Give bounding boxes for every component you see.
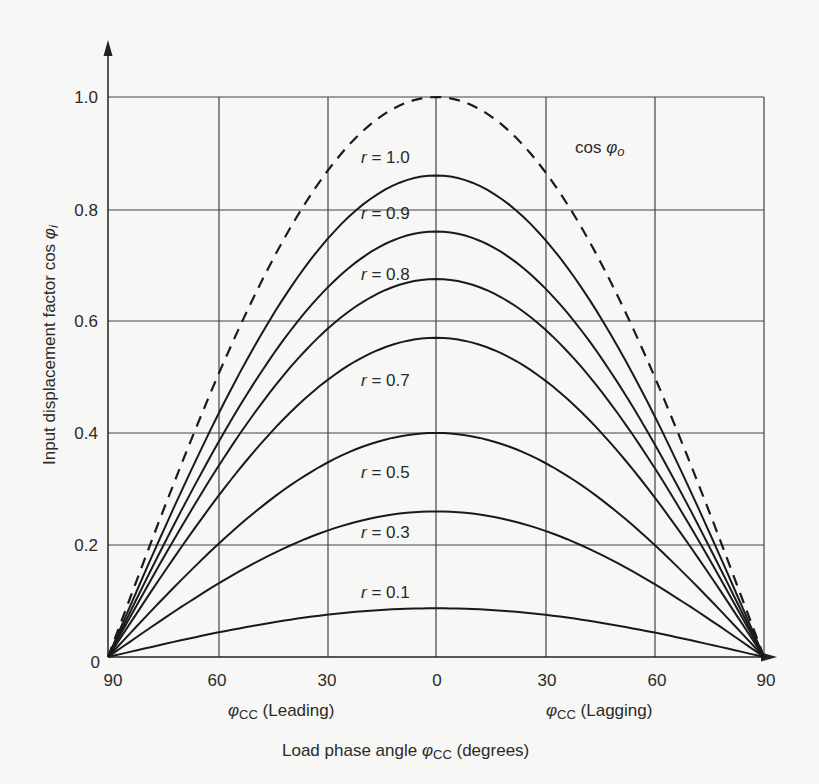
x-tick-label: 30 xyxy=(318,671,337,690)
cos-phi-o-label: cos φo xyxy=(575,138,625,159)
r-label-0-8: r = 0.8 xyxy=(361,265,410,284)
x-tick-label: 60 xyxy=(648,671,667,690)
leading-label: φCC (Leading) xyxy=(228,701,334,722)
y-tick-label: 0.8 xyxy=(74,201,98,220)
y-tick-labels: 1.0 0.8 0.6 0.4 0.2 0 xyxy=(74,88,100,672)
r-label-0-5: r = 0.5 xyxy=(361,463,410,482)
x-tick-label: 0 xyxy=(432,671,441,690)
x-tick-labels: 90 60 30 0 30 60 90 xyxy=(104,671,776,690)
x-tick-label: 30 xyxy=(538,671,557,690)
r-label-0-7: r = 0.7 xyxy=(361,371,410,390)
axes xyxy=(104,40,778,662)
r-label-0-1: r = 0.1 xyxy=(361,583,410,602)
r-label-1-0: r = 1.0 xyxy=(361,148,410,167)
x-tick-label: 90 xyxy=(104,671,123,690)
y-tick-label: 0.2 xyxy=(74,536,98,555)
grid xyxy=(108,97,764,657)
x-tick-label: 90 xyxy=(757,671,776,690)
r-label-0-9: r = 0.9 xyxy=(361,204,410,223)
x-axis-title: Load phase angle φCC (degrees) xyxy=(282,741,529,762)
y-tick-label: 1.0 xyxy=(74,88,98,107)
r-label-0-3: r = 0.3 xyxy=(361,523,410,542)
y-tick-label: 0 xyxy=(91,653,100,672)
y-tick-label: 0.6 xyxy=(74,312,98,331)
lagging-label: φCC (Lagging) xyxy=(546,701,652,722)
x-tick-label: 60 xyxy=(208,671,227,690)
phase-angle-chart: 1.0 0.8 0.6 0.4 0.2 0 90 60 30 0 30 60 9… xyxy=(0,0,819,784)
y-axis-arrow-icon xyxy=(104,40,113,56)
y-axis-title: Input displacement factor cos φi xyxy=(40,224,61,465)
y-tick-label: 0.4 xyxy=(74,424,98,443)
r-labels: r = 1.0 r = 0.9 r = 0.8 r = 0.7 r = 0.5 … xyxy=(361,148,410,602)
